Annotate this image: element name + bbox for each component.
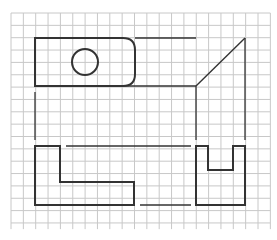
projection-lines [35,38,245,205]
projection-views [35,38,245,205]
drawing-canvas [0,0,277,240]
grid-paper [11,13,270,229]
front-view-l-shape [35,146,134,205]
